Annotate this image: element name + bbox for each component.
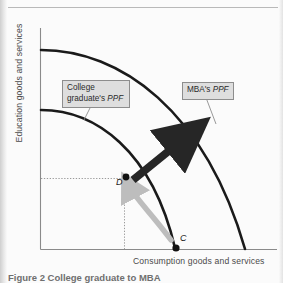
figure-caption: Figure 2 College graduate to MBA (8, 272, 161, 283)
x-axis-label: Consumption goods and services (133, 256, 265, 266)
chart-axes (41, 28, 278, 250)
guide-lines-point-d (41, 179, 125, 250)
y-axis-label: Education goods and services (14, 18, 24, 148)
callout-college-graduate-ppf: College graduate's PPF (62, 80, 130, 108)
ppf-chart (0, 0, 283, 283)
callout-college-line2: graduate's (67, 94, 107, 103)
callout-mba-prefix: MBA's (187, 85, 213, 94)
callout-college-ppf-abbr: PPF (107, 94, 123, 103)
data-point-d (123, 174, 130, 181)
black-shift-arrow (133, 137, 186, 180)
point-label-c: C (180, 233, 187, 243)
callout-mba-ppf: MBA's PPF (182, 82, 234, 100)
data-point-c (172, 244, 179, 251)
figure-page: College graduate's PPF MBA's PPF D C Edu… (0, 0, 283, 283)
point-label-d: D (116, 177, 123, 187)
callout-mba-ppf-abbr: PPF (213, 85, 229, 94)
callout-college-line1: College (67, 83, 95, 92)
